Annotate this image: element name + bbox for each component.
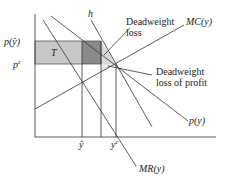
label-deadweight-loss-profit: Deadweight loss of profit bbox=[156, 66, 207, 88]
deadweight-loss-profit-leader bbox=[108, 66, 152, 75]
label-mr: MR(y) bbox=[138, 163, 165, 175]
label-p-hat: p(ŷ) bbox=[3, 36, 21, 48]
monopoly-diagram: p(ŷ) pc T h Deadweight loss MC(y) Deadwe… bbox=[0, 0, 228, 187]
label-p-c: pc bbox=[12, 58, 22, 70]
label-y-c: yc bbox=[110, 138, 119, 150]
label-y-hat: ŷ bbox=[78, 139, 84, 150]
label-h: h bbox=[88, 8, 93, 19]
label-deadweight-loss: Deadweight loss bbox=[126, 16, 177, 38]
label-mc: MC(y) bbox=[185, 16, 213, 28]
label-demand: p(y) bbox=[188, 115, 206, 127]
